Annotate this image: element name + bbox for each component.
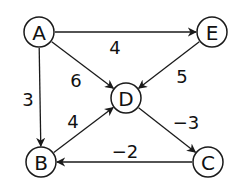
edge-weight-b-d: 4 [67, 111, 78, 132]
edge-weight-d-c: −3 [173, 112, 200, 133]
edge-weight-c-b: −2 [112, 141, 139, 162]
graph-diagram: AEDBC 46354−3−2 [0, 0, 245, 191]
edge-e-to-d [139, 42, 200, 89]
node-label: C [201, 151, 215, 175]
edge-weight-a-d: 6 [70, 70, 81, 91]
node-label: B [34, 151, 48, 175]
node-e: E [197, 17, 227, 47]
node-c: C [193, 147, 223, 177]
edge-weight-a-e: 4 [109, 37, 120, 58]
node-b: B [26, 147, 56, 177]
edge-a-to-b [39, 48, 41, 146]
edge-weight-e-d: 5 [176, 66, 187, 87]
node-label: D [118, 87, 133, 111]
node-label: A [32, 21, 46, 45]
node-d: D [111, 83, 141, 113]
node-a: A [24, 17, 54, 47]
edge-b-to-d [54, 108, 113, 153]
edge-a-to-d [52, 42, 114, 89]
edge-weight-a-b: 3 [22, 89, 33, 110]
node-label: E [206, 21, 219, 45]
